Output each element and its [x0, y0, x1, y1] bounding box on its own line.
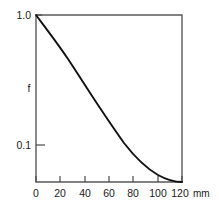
- frame-rect: [36, 15, 182, 182]
- x-tick-label-100: 100: [149, 187, 167, 199]
- x-tick-label-0: 0: [33, 187, 39, 199]
- x-tick-label-40: 40: [79, 187, 91, 199]
- plot-frame: [36, 15, 182, 182]
- x-tick-label-20: 20: [54, 187, 66, 199]
- x-axis-unit-label: mm: [193, 188, 210, 199]
- x-tick-label-120: 120: [171, 187, 189, 199]
- x-tick-label-60: 60: [103, 187, 115, 199]
- y-axis-ticks: [36, 15, 45, 145]
- y-tick-label-top: 1.0: [16, 9, 31, 21]
- x-tick-label-80: 80: [127, 187, 139, 199]
- chart-svg: 1.0 0.1 f 0 20 40 60 80 100 120 mm: [0, 0, 219, 210]
- y-tick-label-mid: 0.1: [16, 139, 31, 151]
- y-axis-label: f: [28, 82, 31, 94]
- data-curve-f: [36, 15, 182, 182]
- chart-figure: 1.0 0.1 f 0 20 40 60 80 100 120 mm: [0, 0, 219, 210]
